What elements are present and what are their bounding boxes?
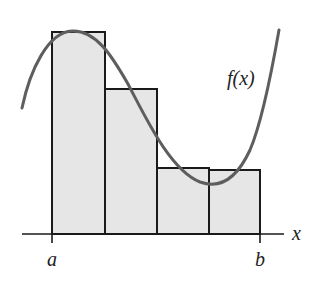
rectangle-4 [209, 170, 260, 234]
label-b: b [255, 248, 265, 270]
rectangle-3 [157, 168, 209, 234]
rectangle-2 [105, 89, 157, 234]
riemann-sum-diagram: f(x) x a b [0, 0, 310, 283]
x-axis-label: x [291, 222, 301, 244]
rectangle-1 [52, 32, 105, 234]
label-a: a [47, 248, 57, 270]
function-label: f(x) [227, 67, 255, 90]
